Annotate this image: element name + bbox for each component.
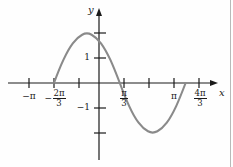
x-axis-label: x	[219, 88, 225, 98]
y-axis	[96, 8, 102, 160]
plot-area	[0, 0, 233, 167]
x-tick-label-four-pi-over-three: 4π3	[190, 89, 210, 108]
sine-graph-figure: x y −π −2π3 π3 π 4π3 1 −1	[0, 0, 233, 167]
x-tick-label-neg-two-pi-over-three: −2π3	[39, 89, 71, 108]
fraction-pi-over-three: π3	[120, 89, 128, 108]
x-tick-label-neg-pi: −π	[19, 92, 39, 101]
x-tick-label-pi-over-three: π3	[115, 89, 133, 108]
y-tick-label-one: 1	[76, 53, 90, 62]
y-tick-label-negative-one: −1	[70, 103, 90, 112]
negative-sign: −	[44, 94, 52, 103]
fraction-two-pi-over-three: 2π3	[53, 89, 66, 108]
right-edge-border	[230, 0, 231, 167]
x-tick-label-pi: π	[165, 92, 183, 101]
y-axis-label: y	[88, 5, 94, 15]
fraction-four-pi-over-three: 4π3	[194, 89, 207, 108]
